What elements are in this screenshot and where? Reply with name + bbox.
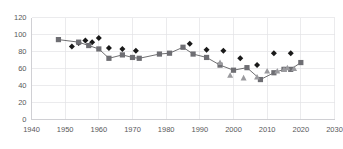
x-axis-tick-label: 1970 <box>124 125 141 134</box>
data-point-square <box>86 43 91 48</box>
data-point-diamond <box>288 50 294 56</box>
data-markers-group <box>56 35 304 82</box>
data-point-square <box>130 55 135 60</box>
x-axis-tick-label: 2020 <box>292 125 309 134</box>
data-point-square <box>244 65 249 70</box>
data-point-diamond <box>187 41 193 47</box>
x-axis-tick-label: 2000 <box>225 125 242 134</box>
data-point-diamond <box>254 62 260 68</box>
data-point-square <box>106 56 111 61</box>
x-axis-tick-label: 1960 <box>90 125 107 134</box>
y-axis-tick-label: 60 <box>18 64 26 73</box>
data-point-triangle <box>241 75 247 81</box>
x-tick-labels-group: 1940195019601970198019902000201020202030 <box>23 125 343 134</box>
data-point-triangle <box>264 68 270 74</box>
data-point-square <box>298 60 303 65</box>
data-point-diamond <box>106 45 112 51</box>
chart-container: 020406080100120 194019501960197019801990… <box>0 0 343 149</box>
data-point-square <box>137 56 142 61</box>
y-axis-tick-label: 40 <box>18 81 26 90</box>
data-point-square <box>96 46 101 51</box>
x-axis-tick-label: 1950 <box>57 125 74 134</box>
y-axis-tick-label: 100 <box>14 30 27 39</box>
data-point-square <box>191 51 196 56</box>
x-axis-tick-label: 1990 <box>191 125 208 134</box>
data-point-diamond <box>69 43 75 49</box>
data-point-square <box>56 37 61 42</box>
data-point-diamond <box>82 37 88 43</box>
x-axis-tick-label: 1980 <box>158 125 175 134</box>
x-axis-tick-label: 2030 <box>326 125 343 134</box>
data-point-diamond <box>204 47 210 53</box>
data-point-diamond <box>237 55 243 61</box>
y-axis-tick-label: 0 <box>22 115 26 124</box>
y-axis-tick-label: 20 <box>18 98 26 107</box>
chart-plot-area: 020406080100120 194019501960197019801990… <box>0 0 343 149</box>
data-point-diamond <box>271 50 277 56</box>
x-axis-tick-label: 2010 <box>259 125 276 134</box>
data-point-square <box>167 51 172 56</box>
data-point-square <box>157 51 162 56</box>
data-point-square <box>204 55 209 60</box>
data-point-square <box>120 52 125 57</box>
data-point-diamond <box>119 46 125 52</box>
data-point-diamond <box>220 48 226 54</box>
data-point-square <box>180 45 185 50</box>
y-axis-tick-label: 80 <box>18 47 26 56</box>
data-point-triangle <box>217 60 223 66</box>
y-tick-labels-group: 020406080100120 <box>14 13 27 124</box>
data-point-square <box>76 40 81 45</box>
y-axis-tick-label: 120 <box>14 13 27 22</box>
x-axis-tick-label: 1940 <box>23 125 40 134</box>
data-point-diamond <box>96 35 102 41</box>
data-point-square <box>231 68 236 73</box>
data-point-diamond <box>133 48 139 54</box>
data-point-triangle <box>227 72 233 78</box>
